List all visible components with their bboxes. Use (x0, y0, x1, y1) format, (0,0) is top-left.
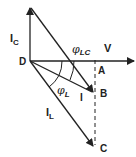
b-label: B (100, 88, 107, 99)
phi-l-label: φL (57, 84, 70, 99)
i-label: I (80, 92, 83, 103)
a-label: A (98, 65, 105, 76)
d-label: D (19, 56, 26, 67)
phi-lc-label: φLC (72, 43, 91, 57)
v-label: V (104, 42, 112, 54)
ic-label: IC (10, 32, 19, 47)
c-label: C (100, 143, 107, 154)
il-label: IL (46, 106, 54, 121)
il-vector (30, 61, 93, 146)
phasor-diagram: IC φLC V D A B I φL IL C (0, 0, 136, 157)
